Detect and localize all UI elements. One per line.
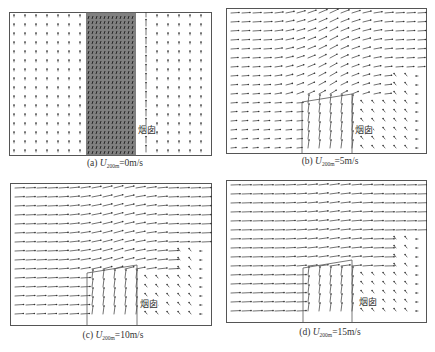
vector-field-c <box>10 183 212 326</box>
panel-c: 烟囱 <box>10 183 212 326</box>
caption-c: (c) U200m=10m/s <box>48 330 178 341</box>
caption-b: (b) U200m=5m/s <box>265 156 395 167</box>
panel-a: 烟囱 <box>9 12 212 156</box>
vector-field-d <box>226 180 427 323</box>
caption-d: (d) U200m=15m/s <box>265 327 395 338</box>
chimney-label-d: 烟囱 <box>359 298 377 307</box>
panel-b: 烟囱 <box>226 8 427 154</box>
panel-d: 烟囱 <box>226 180 427 323</box>
chimney-label-c: 烟囱 <box>140 300 158 309</box>
caption-a: (a) U200m=0m/s <box>50 158 180 169</box>
vector-field-b <box>226 8 427 154</box>
vector-field-a <box>9 12 212 156</box>
chimney-label-b: 烟囱 <box>355 126 373 135</box>
chimney-label-a: 烟囱 <box>138 126 156 135</box>
